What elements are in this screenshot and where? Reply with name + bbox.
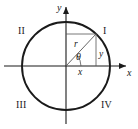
angle-label: θ	[76, 52, 81, 62]
opposite-leg-label: y	[99, 50, 103, 60]
quadrant-label-II: II	[18, 26, 25, 36]
quadrant-label-IV: IV	[101, 100, 112, 110]
quadrant-label-III: III	[16, 100, 27, 110]
y-axis-arrow-icon	[63, 7, 69, 14]
adjacent-leg-label: x	[78, 68, 82, 78]
x-axis-arrow-icon	[119, 63, 126, 69]
quadrant-label-I: I	[103, 26, 107, 36]
x-axis-label: x	[127, 68, 131, 78]
y-axis-label: y	[57, 3, 61, 13]
radius-line	[66, 34, 96, 66]
radius-label: r	[74, 40, 78, 50]
trigonometry-figure: II I III IV x y r θ y x	[0, 0, 138, 129]
